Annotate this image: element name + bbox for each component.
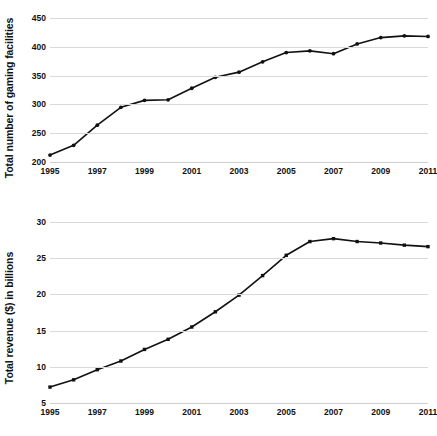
y-tick-labels-revenue: 51015202530 bbox=[22, 222, 48, 403]
y-axis-title-facilities: Total number of gaming facilities bbox=[0, 0, 18, 196]
data-point-facilities-1999 bbox=[143, 98, 147, 102]
series-path-facilities bbox=[50, 36, 428, 155]
data-point-revenue-2004 bbox=[261, 274, 264, 277]
x-tick-facilities-2007: 2007 bbox=[324, 166, 343, 176]
data-point-facilities-2003 bbox=[237, 70, 241, 74]
data-point-revenue-1996 bbox=[72, 378, 75, 381]
x-tick-revenue-2005: 2005 bbox=[277, 407, 296, 417]
data-point-revenue-1998 bbox=[119, 359, 122, 362]
data-point-facilities-2000 bbox=[166, 98, 170, 102]
data-point-revenue-2008 bbox=[355, 240, 358, 243]
x-tick-facilities-2001: 2001 bbox=[182, 166, 201, 176]
x-tick-revenue-2007: 2007 bbox=[324, 407, 343, 417]
y-tick-facilities-400: 400 bbox=[32, 42, 46, 52]
plot-area-facilities bbox=[50, 18, 428, 162]
series-line-revenue bbox=[50, 222, 428, 403]
gridline-facilities-400 bbox=[50, 47, 428, 48]
data-point-revenue-2007 bbox=[332, 237, 335, 240]
y-axis-title-facilities-text: Total number of gaming facilities bbox=[3, 18, 15, 178]
data-point-revenue-2001 bbox=[190, 325, 193, 328]
data-point-facilities-1997 bbox=[95, 123, 99, 127]
data-point-facilities-1996 bbox=[72, 143, 76, 147]
x-tick-labels-facilities: 199519971999200120032005200720092011 bbox=[50, 166, 428, 180]
data-point-facilities-2010 bbox=[402, 34, 406, 38]
x-tick-revenue-2011: 2011 bbox=[419, 407, 437, 417]
x-tick-facilities-1999: 1999 bbox=[135, 166, 154, 176]
data-point-facilities-2011 bbox=[426, 35, 430, 39]
gridline-facilities-250 bbox=[50, 133, 428, 134]
x-tick-labels-revenue: 199519971999200120032005200720092011 bbox=[50, 407, 428, 421]
data-point-facilities-2009 bbox=[379, 36, 383, 40]
data-point-facilities-1998 bbox=[119, 105, 123, 109]
x-tick-revenue-2003: 2003 bbox=[230, 407, 249, 417]
x-tick-facilities-1995: 1995 bbox=[41, 166, 60, 176]
data-point-facilities-2006 bbox=[308, 49, 312, 53]
data-point-revenue-1995 bbox=[48, 385, 51, 388]
x-tick-facilities-2005: 2005 bbox=[277, 166, 296, 176]
y-tick-facilities-250: 250 bbox=[32, 128, 46, 138]
gridline-revenue-15 bbox=[50, 331, 428, 332]
data-point-revenue-2000 bbox=[166, 338, 169, 341]
data-point-facilities-2008 bbox=[355, 42, 359, 46]
x-tick-revenue-2001: 2001 bbox=[182, 407, 201, 417]
data-point-facilities-2004 bbox=[261, 60, 265, 64]
gridline-revenue-5 bbox=[50, 403, 428, 404]
x-tick-revenue-1997: 1997 bbox=[88, 407, 107, 417]
data-point-facilities-1995 bbox=[48, 153, 52, 157]
y-axis-title-revenue: Total revenue ($) in billions bbox=[0, 200, 18, 436]
y-tick-revenue-20: 20 bbox=[37, 289, 46, 299]
data-point-facilities-2007 bbox=[332, 52, 336, 56]
y-tick-facilities-350: 350 bbox=[32, 71, 46, 81]
data-point-revenue-2002 bbox=[214, 310, 217, 313]
y-tick-facilities-450: 450 bbox=[32, 13, 46, 23]
gridline-facilities-300 bbox=[50, 104, 428, 105]
data-point-revenue-1997 bbox=[96, 368, 99, 371]
plot-wrap-facilities: 200250300350400450 199519971999200120032… bbox=[22, 0, 432, 196]
gridline-revenue-20 bbox=[50, 294, 428, 295]
y-tick-revenue-10: 10 bbox=[37, 362, 46, 372]
x-tick-revenue-1995: 1995 bbox=[41, 407, 60, 417]
gridline-revenue-25 bbox=[50, 258, 428, 259]
gridline-facilities-200 bbox=[50, 162, 428, 163]
y-tick-revenue-30: 30 bbox=[37, 217, 46, 227]
x-tick-facilities-2011: 2011 bbox=[419, 166, 437, 176]
data-point-revenue-2006 bbox=[308, 240, 311, 243]
x-tick-revenue-1999: 1999 bbox=[135, 407, 154, 417]
series-line-facilities bbox=[50, 18, 428, 162]
gridline-revenue-30 bbox=[50, 222, 428, 223]
y-tick-facilities-300: 300 bbox=[32, 99, 46, 109]
y-axis-title-revenue-text: Total revenue ($) in billions bbox=[3, 252, 15, 384]
y-tick-labels-facilities: 200250300350400450 bbox=[22, 18, 48, 162]
data-point-revenue-2010 bbox=[403, 243, 406, 246]
data-point-revenue-2005 bbox=[285, 254, 288, 257]
x-tick-facilities-1997: 1997 bbox=[88, 166, 107, 176]
gridline-revenue-10 bbox=[50, 367, 428, 368]
x-tick-facilities-2009: 2009 bbox=[371, 166, 390, 176]
gridline-facilities-450 bbox=[50, 18, 428, 19]
plot-wrap-revenue: 51015202530 1995199719992001200320052007… bbox=[22, 200, 432, 436]
data-point-revenue-2009 bbox=[379, 241, 382, 244]
plot-area-revenue bbox=[50, 222, 428, 403]
y-tick-revenue-25: 25 bbox=[37, 253, 46, 263]
data-point-facilities-2005 bbox=[284, 51, 288, 55]
data-point-facilities-2001 bbox=[190, 86, 194, 90]
x-tick-facilities-2003: 2003 bbox=[230, 166, 249, 176]
y-tick-revenue-15: 15 bbox=[37, 326, 46, 336]
data-point-revenue-1999 bbox=[143, 348, 146, 351]
series-path-revenue bbox=[50, 239, 428, 387]
chart-gaming-facilities: Total number of gaming facilities 200250… bbox=[0, 0, 436, 196]
chart-total-revenue: Total revenue ($) in billions 5101520253… bbox=[0, 200, 436, 436]
data-point-revenue-2011 bbox=[426, 245, 429, 248]
x-tick-revenue-2009: 2009 bbox=[371, 407, 390, 417]
gridline-facilities-350 bbox=[50, 76, 428, 77]
